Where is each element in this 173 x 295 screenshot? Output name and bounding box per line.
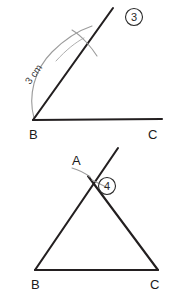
step-number-badge-4: 4 (99, 178, 116, 195)
arc-mark-at-a-icon (72, 168, 90, 177)
step-number-badge-3: 3 (126, 9, 143, 26)
ray-b-to-a-line (33, 8, 113, 120)
measure-leader-line (56, 38, 84, 61)
step-number-text-4: 4 (104, 180, 110, 192)
panel-step-4: A B C 4 (31, 148, 159, 292)
panel-step-3: 3 cm B C 3 (23, 8, 162, 142)
base-line-bc (33, 119, 162, 120)
vertex-label-b-bottom: B (31, 277, 40, 292)
vertex-label-b-top: B (29, 127, 38, 142)
side-line-ac (88, 176, 158, 270)
geometry-figure: 3 cm B C 3 A B (0, 0, 173, 295)
step-number-text-3: 3 (131, 11, 137, 23)
vertex-label-c-bottom: C (150, 277, 159, 292)
vertex-label-a: A (72, 153, 81, 168)
vertex-label-c-top: C (148, 127, 157, 142)
geometry-canvas: 3 cm B C 3 A B (0, 0, 173, 295)
